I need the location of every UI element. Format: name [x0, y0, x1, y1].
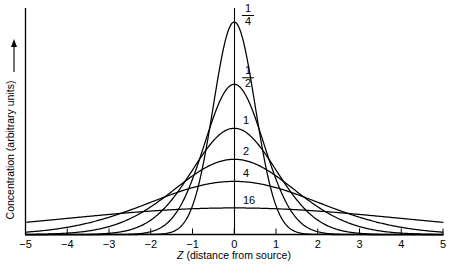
x-tick-label-5: 0 [231, 238, 237, 250]
diffusion-chart-figure: −5−4−3−2−1012345 141212416 Z (distance f… [0, 0, 451, 265]
x-tick-label-10: 5 [440, 238, 446, 250]
x-tick-label-9: 4 [398, 238, 404, 250]
x-tick-label-2: −3 [103, 238, 116, 250]
x-tick-label-4: −1 [186, 238, 199, 250]
curve-label-1-over-4: 14 [242, 2, 254, 27]
curve-label-numerator: 1 [245, 64, 251, 76]
curve-label-2: 2 [243, 145, 249, 157]
curve-label-text: 4 [243, 167, 249, 179]
x-tick-label-7: 2 [315, 238, 321, 250]
curve-label-1: 1 [243, 114, 249, 126]
x-axis-title-rest: (distance from source) [184, 249, 291, 261]
curve-label-numerator: 1 [245, 2, 251, 14]
x-tick-label-3: −2 [144, 238, 157, 250]
curve-label-denominator: 4 [245, 15, 251, 27]
curve-labels: 141212416 [242, 2, 255, 206]
x-tick-label-8: 3 [356, 238, 362, 250]
curve-label-4: 4 [243, 167, 249, 179]
curve-label-text: 16 [243, 194, 255, 206]
curve-label-16: 16 [243, 194, 255, 206]
curve-label-text: 2 [243, 145, 249, 157]
x-axis-title-text: Z (distance from source) [176, 249, 291, 261]
x-axis-tick-labels: −5−4−3−2−1012345 [19, 238, 446, 250]
x-tick-label-0: −5 [19, 238, 32, 250]
axis-lines [25, 8, 443, 235]
x-tick-label-1: −4 [61, 238, 74, 250]
y-axis-title: Concentration (arbitrary units) [4, 39, 17, 219]
x-tick-label-6: 1 [273, 238, 279, 250]
y-axis-arrow-icon [11, 39, 17, 72]
y-axis-title-text: Concentration (arbitrary units) [4, 81, 16, 220]
chart-plot-area: −5−4−3−2−1012345 141212416 Z (distance f… [0, 0, 451, 265]
x-axis-title: Z (distance from source) [176, 249, 291, 261]
curve-label-text: 1 [243, 114, 249, 126]
curve-label-denominator: 2 [245, 77, 251, 89]
